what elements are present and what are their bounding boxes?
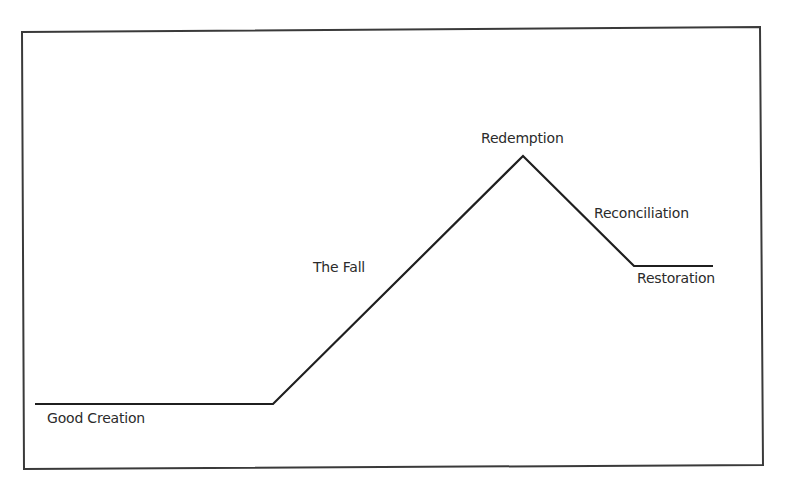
- label-the-fall: The Fall: [313, 260, 365, 274]
- diagram-frame: [22, 27, 763, 469]
- label-reconciliation: Reconciliation: [594, 206, 689, 220]
- label-good-creation: Good Creation: [47, 411, 145, 425]
- label-redemption: Redemption: [481, 131, 564, 145]
- label-restoration: Restoration: [637, 271, 715, 285]
- arc-line: [35, 156, 713, 404]
